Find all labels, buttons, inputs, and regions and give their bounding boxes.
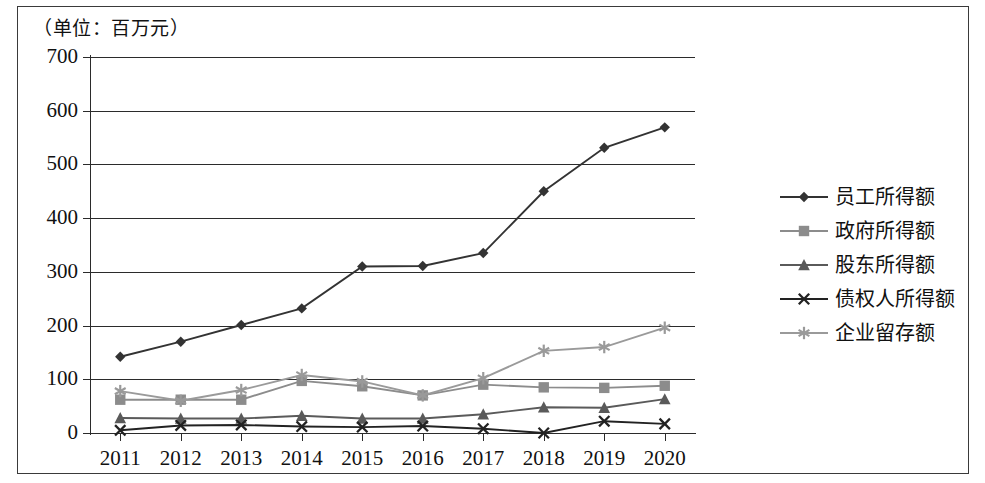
x-tick-label: 2011	[85, 446, 155, 470]
x-tick-mark	[241, 433, 242, 441]
x-tick-label: 2018	[509, 446, 579, 470]
legend-item-1[interactable]: 员工所得额	[778, 180, 978, 214]
legend-symbol-cross-icon	[778, 288, 830, 310]
x-tick-label: 2012	[146, 446, 216, 470]
x-tick-mark	[302, 433, 303, 441]
data-point-square	[660, 381, 670, 391]
x-tick-mark	[665, 433, 666, 441]
series-line	[120, 328, 665, 401]
x-tick-label: 2020	[630, 446, 700, 470]
legend-label: 股东所得额	[830, 254, 935, 276]
y-tick-label: 600	[18, 100, 78, 121]
x-tick-mark	[483, 433, 484, 441]
legend-item-4[interactable]: 债权人所得额	[778, 282, 978, 316]
data-point-asterisk	[659, 322, 670, 334]
x-tick-label: 2014	[267, 446, 337, 470]
legend-symbol-square-icon	[778, 220, 830, 242]
legend-label: 债权人所得额	[830, 288, 955, 310]
y-tick-label: 400	[18, 207, 78, 228]
data-point-square	[539, 382, 549, 392]
x-tick-mark	[120, 433, 121, 441]
series-line	[120, 421, 665, 433]
x-tick-label: 2019	[569, 446, 639, 470]
data-point-diamond	[660, 122, 670, 132]
series-line	[120, 127, 665, 356]
x-tick-mark	[362, 433, 363, 441]
series-1	[115, 122, 670, 362]
legend-item-3[interactable]: 股东所得额	[778, 248, 978, 282]
data-point-square	[799, 226, 809, 236]
data-point-square	[599, 383, 609, 393]
y-tick-label: 300	[18, 261, 78, 282]
y-tick-label: 100	[18, 368, 78, 389]
y-tick-label: 700	[18, 46, 78, 67]
data-point-diamond	[236, 320, 246, 330]
series-5	[115, 322, 670, 407]
y-tick-label: 0	[18, 422, 78, 443]
legend-item-2[interactable]: 政府所得额	[778, 214, 978, 248]
chart-unit-title: （单位：百万元）	[33, 13, 189, 40]
x-tick-label: 2017	[448, 446, 518, 470]
x-tick-mark	[181, 433, 182, 441]
x-tick-mark	[604, 433, 605, 441]
legend-label: 员工所得额	[830, 186, 935, 208]
data-point-diamond	[799, 192, 809, 202]
series-2	[115, 376, 670, 405]
legend-symbol-diamond-icon	[778, 186, 830, 208]
x-tick-label: 2013	[206, 446, 276, 470]
legend-symbol-triangle-icon	[778, 254, 830, 276]
y-tick-label: 200	[18, 315, 78, 336]
chart-figure: （单位：百万元） 0100200300400500600700 20112012…	[0, 0, 985, 483]
chart-legend: 员工所得额政府所得额股东所得额债权人所得额企业留存额	[778, 180, 978, 350]
legend-symbol-asterisk-icon	[778, 322, 830, 344]
data-point-triangle	[659, 393, 671, 404]
legend-label: 政府所得额	[830, 220, 935, 242]
series-line	[120, 399, 665, 418]
x-tick-label: 2016	[388, 446, 458, 470]
x-tick-mark	[423, 433, 424, 441]
y-tick-label: 500	[18, 153, 78, 174]
chart-series-layer	[90, 57, 695, 433]
legend-item-5[interactable]: 企业留存额	[778, 316, 978, 350]
x-tick-label: 2015	[327, 446, 397, 470]
legend-label: 企业留存额	[830, 322, 935, 344]
data-point-diamond	[115, 352, 125, 362]
data-point-diamond	[418, 261, 428, 271]
data-point-diamond	[176, 336, 186, 346]
